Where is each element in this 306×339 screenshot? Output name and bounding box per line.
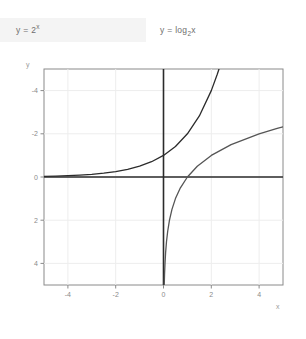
function-plot: -4-2024420-2-4 y x (0, 0, 306, 339)
tick-label-x: 0 (162, 291, 166, 298)
tick-label-x: -2 (113, 291, 119, 298)
y-axis-label: y (26, 61, 30, 68)
tick-label-y: -2 (32, 130, 38, 137)
tick-label-y: 4 (34, 260, 38, 267)
tick-label-x: 4 (257, 291, 261, 298)
tick-label-x: -4 (65, 291, 71, 298)
plot-canvas: -4-2024420-2-4 (0, 0, 306, 339)
tick-label-x: 2 (209, 291, 213, 298)
tick-label-y: -4 (32, 87, 38, 94)
tick-label-y: 2 (34, 217, 38, 224)
x-axis-label: x (276, 303, 280, 310)
tick-label-y: 0 (34, 174, 38, 181)
